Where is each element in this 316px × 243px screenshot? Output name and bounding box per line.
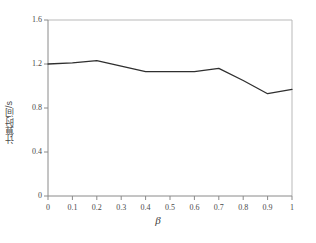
y-tick-label: 1.6 [6, 15, 42, 24]
x-axis-ticks [48, 196, 292, 200]
y-tick-label: 0 [6, 191, 42, 200]
plot-frame [48, 20, 292, 196]
y-tick-label: 1.2 [6, 59, 42, 68]
y-tick-label: 0.4 [6, 147, 42, 156]
plot-background [48, 20, 292, 196]
x-axis-title: β [0, 214, 316, 226]
x-tick-label: 1 [277, 203, 307, 212]
y-axis-title: 计算时间/s [4, 72, 20, 172]
chart-figure: 计算时间/s β 00.40.81.21.6 00.10.20.30.40.50… [0, 0, 316, 243]
y-tick-label: 0.8 [6, 103, 42, 112]
y-axis-ticks [44, 20, 48, 196]
